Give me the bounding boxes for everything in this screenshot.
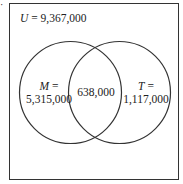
intersection-label: 638,000 [70,86,122,99]
equals-sign: = [49,80,58,92]
universe-label: U = 9,367,000 [20,12,87,25]
set-m-value: 5,315,000 [26,93,72,105]
set-m-symbol: M [40,80,50,92]
equals-sign: = [145,80,154,92]
set-t-label: T =1,117,000 [120,80,172,106]
intersection-value: 638,000 [77,86,114,98]
equals-sign: = [28,12,40,24]
universe-value: 9,367,000 [41,12,87,24]
set-t-value: 1,117,000 [123,93,169,105]
